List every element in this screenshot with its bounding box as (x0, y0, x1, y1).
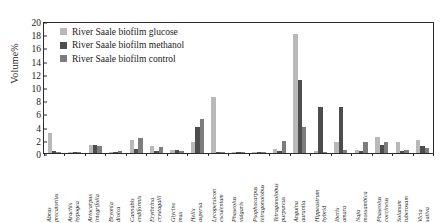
x-tick-label: Viciasativa (417, 158, 430, 222)
x-label-cell: Erythrinacrystagalli (146, 158, 167, 222)
bar-group (372, 23, 392, 153)
x-tick-label: Iberisamara (335, 158, 348, 222)
bar-group (249, 23, 269, 153)
legend: River Saale biofilm glucoseRiver Saale b… (60, 26, 184, 67)
x-label-cell: Artocarpusintegrifolia (84, 158, 105, 222)
y-tick-label: 18 (32, 31, 45, 41)
x-label-cell: Psophocarpustetragonolobus (249, 158, 270, 222)
bar (220, 152, 224, 153)
x-label-cell: Hippeastrumhybrid (311, 158, 332, 222)
x-label-cell: Anguinaaurantia (290, 158, 311, 222)
x-label-cell: Cannabisendiformis (125, 158, 146, 222)
x-tick-mark (249, 153, 250, 156)
bar (138, 138, 142, 153)
x-tick-label: Solanumtuberosum (397, 158, 410, 222)
y-tick-label: 8 (36, 97, 44, 107)
x-tick-mark (85, 153, 86, 156)
legend-label: River Saale biofilm control (72, 54, 176, 64)
bar (261, 152, 265, 153)
x-label-cell: Abrusprecatorius (43, 158, 64, 222)
bar-group (351, 23, 371, 153)
x-tick-label: Phaseolusvulgaris (232, 158, 245, 222)
bar-group (228, 23, 248, 153)
x-tick-label: Lycopersiconesculentum (211, 158, 224, 222)
x-label-cell: Lycopersiconesculentum (208, 158, 229, 222)
x-label-cell: Iberisamara (331, 158, 352, 222)
x-tick-label: Phaseoluscoccineus (376, 158, 389, 222)
y-tick-label: 16 (32, 44, 45, 54)
bar (425, 148, 429, 153)
bar (323, 152, 327, 153)
bar (118, 151, 122, 153)
bar (211, 97, 215, 153)
legend-label: River Saale biofilm methanol (72, 40, 184, 50)
y-tick-label: 10 (32, 84, 45, 94)
bar (48, 133, 52, 153)
x-label-cell: Najamossambica (352, 158, 373, 222)
bar (282, 141, 286, 153)
x-label-cell: Helixaspersa (187, 158, 208, 222)
x-tick-mark (433, 153, 434, 156)
x-tick-label: Erythrinacrystagalli (150, 158, 163, 222)
bar (179, 151, 183, 153)
bar (77, 152, 81, 153)
bar (339, 107, 343, 153)
x-tick-label: Anguinaaurantia (294, 158, 307, 222)
x-label-cell: Bryoniadioica (105, 158, 126, 222)
y-tick-label: 4 (36, 124, 44, 134)
bar-group (269, 23, 289, 153)
bar-group (412, 23, 432, 153)
bar (56, 152, 60, 153)
x-tick-mark (228, 153, 229, 156)
x-label-cell: Phaseoluscoccineus (372, 158, 393, 222)
x-tick-mark (126, 153, 127, 156)
x-tick-mark (310, 153, 311, 156)
bar (363, 142, 367, 153)
legend-label: River Saale biofilm glucose (72, 27, 178, 37)
chart-figure: Volume% 02468101214161820 Abrusprecatori… (0, 0, 444, 223)
x-tick-label: Tetragonolobuspurpureus (273, 158, 286, 222)
legend-item: River Saale biofilm glucose (60, 26, 184, 37)
legend-item: River Saale biofilm methanol (60, 40, 184, 51)
bar (318, 107, 322, 153)
legend-item: River Saale biofilm control (60, 53, 184, 64)
x-tick-label: Psophocarpustetragonolobus (252, 158, 265, 222)
x-tick-label: Arachishypogea (67, 158, 80, 222)
bar (97, 146, 101, 153)
bar (404, 150, 408, 153)
y-tick-label: 6 (36, 110, 44, 120)
x-tick-mark (413, 153, 414, 156)
bar-group (187, 23, 207, 153)
x-tick-mark (331, 153, 332, 156)
x-tick-label: Cannabisendiformis (129, 158, 142, 222)
bar (241, 152, 245, 153)
x-label-cell: Glycinemax (166, 158, 187, 222)
y-tick-label: 12 (32, 71, 45, 81)
x-tick-mark (105, 153, 106, 156)
y-tick-label: 2 (36, 137, 44, 147)
x-tick-label: Bryoniadioica (108, 158, 121, 222)
x-tick-mark (351, 153, 352, 156)
x-tick-mark (208, 153, 209, 156)
x-axis-labels: AbrusprecatoriusArachishypogeaArtocarpus… (43, 158, 434, 222)
x-tick-mark (64, 153, 65, 156)
x-tick-mark (167, 153, 168, 156)
x-tick-label: Glycinemax (170, 158, 183, 222)
bar-group (331, 23, 351, 153)
x-tick-mark (392, 153, 393, 156)
legend-swatch-icon (60, 28, 67, 35)
x-label-cell: Viciasativa (413, 158, 434, 222)
x-tick-mark (372, 153, 373, 156)
bar (302, 127, 306, 153)
bar (343, 150, 347, 153)
x-tick-mark (269, 153, 270, 156)
x-tick-label: Abrusprecatorius (47, 158, 60, 222)
x-tick-mark (187, 153, 188, 156)
bar-group (290, 23, 310, 153)
y-axis-title: Volume% (9, 24, 20, 104)
bar-group (310, 23, 330, 153)
bar-group (208, 23, 228, 153)
x-label-cell: Phaseolusvulgaris (228, 158, 249, 222)
x-label-cell: Arachishypogea (64, 158, 85, 222)
bar (200, 119, 204, 153)
